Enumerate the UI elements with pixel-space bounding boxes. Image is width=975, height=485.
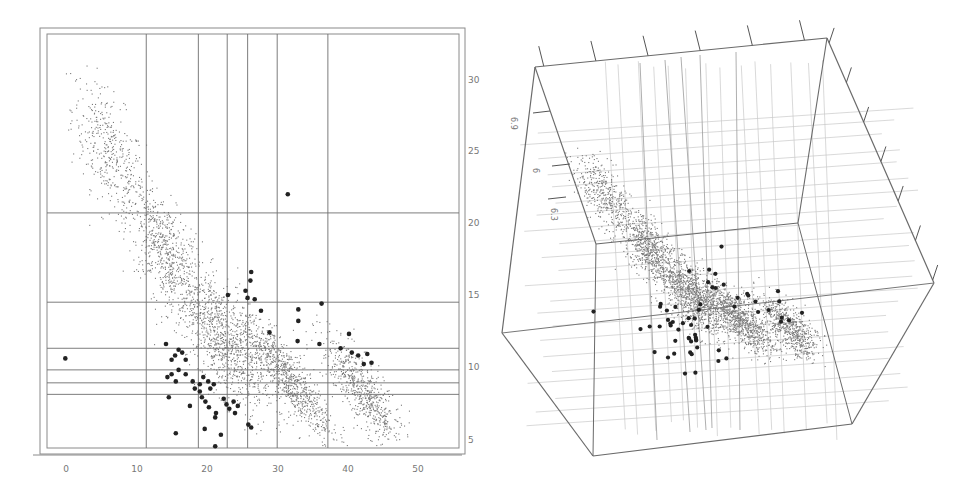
3d-axis-label: 6.3 [549,208,558,221]
figure: 0 10 20 30 40 50 30 25 20 15 10 5 6.9 6 … [0,0,975,485]
3d-wireframe-box [502,20,938,456]
x-tick-label: 0 [63,464,69,474]
y-tick-label: 5 [468,435,474,445]
y-tick-label: 20 [468,218,480,228]
3d-axis-label: 6 [531,168,540,173]
y-tick-label: 30 [468,75,480,85]
x-tick-label: 40 [342,464,354,474]
x-axis-ticks: 0 10 20 30 40 50 [63,464,424,474]
y-tick-label: 15 [468,290,479,300]
small-points-layer [66,66,410,447]
x-tick-label: 30 [272,464,284,474]
y-axis-ticks: 30 25 20 15 10 5 [468,75,480,445]
x-tick-label: 10 [131,464,143,474]
plot-frame [33,28,465,455]
left-scatter-plot: 0 10 20 30 40 50 30 25 20 15 10 5 6.9 6 … [0,0,975,485]
y-tick-label: 25 [468,146,479,156]
x-tick-label: 20 [201,464,213,474]
partition-lines [47,34,459,448]
x-tick-label: 50 [412,464,424,474]
y-tick-label: 10 [468,362,480,372]
3d-axis-label: 6.9 [509,117,518,130]
